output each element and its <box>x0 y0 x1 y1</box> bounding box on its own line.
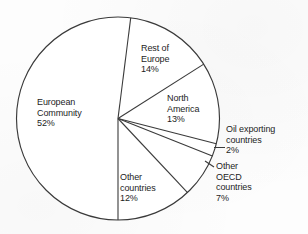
slice-label-line: Europe <box>141 54 169 65</box>
slice-value: 12% <box>120 193 156 204</box>
slice-label-other-oecd-countries: Other OECD countries 7% <box>216 161 252 203</box>
slice-value: 13% <box>167 114 199 125</box>
slice-label-line: Other <box>216 161 252 172</box>
slice-label-line: European <box>37 97 82 108</box>
slice-label-line: Rest of <box>141 43 169 54</box>
slice-label-oil-exporting-countries: Oil exporting countries 2% <box>226 124 275 156</box>
slice-label-north-america: North America 13% <box>167 93 199 125</box>
slice-label-rest-of-europe: Rest of Europe 14% <box>141 43 169 75</box>
slice-label-line: countries <box>216 182 252 193</box>
slice-label-line: Community <box>37 108 82 119</box>
slice-label-european-community: European Community 52% <box>37 97 82 129</box>
slice-label-line: OECD <box>216 172 252 183</box>
slice-value: 7% <box>216 193 252 204</box>
slice-label-line: America <box>167 104 199 115</box>
slice-label-line: Other <box>120 172 156 183</box>
slice-value: 52% <box>37 118 82 129</box>
pie-chart-figure: European Community 52% Rest of Europe 14… <box>0 0 308 234</box>
slice-label-other-countries: Other countries 12% <box>120 172 156 204</box>
slice-label-line: countries <box>120 183 156 194</box>
slice-value: 2% <box>226 145 275 156</box>
slice-value: 14% <box>141 64 169 75</box>
slice-label-line: North <box>167 93 199 104</box>
slice-label-line: countries <box>226 135 275 146</box>
slice-label-line: Oil exporting <box>226 124 275 135</box>
